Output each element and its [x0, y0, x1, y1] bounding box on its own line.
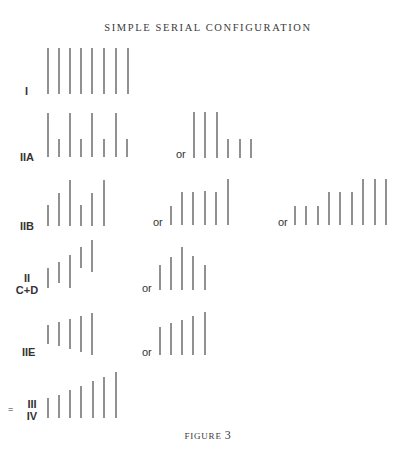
line-group-IIA-1: [48, 113, 127, 157]
line-group-I-1: [48, 48, 128, 94]
line-group-IIE-1: [48, 313, 92, 355]
line-group-IICD-1: [48, 240, 92, 288]
line-group-IIB-2: [171, 179, 228, 225]
line-group-IIB-1: [48, 180, 104, 226]
line-group-IIE-2: [160, 312, 205, 355]
line-group-III-IV-1: [48, 372, 116, 418]
serial-configuration-diagram: [0, 0, 416, 457]
caption-prefix: FIGURE: [184, 431, 221, 441]
figure-caption: FIGURE 3: [0, 428, 416, 443]
line-group-IIB-3: [295, 179, 386, 225]
line-group-IICD-2: [160, 247, 205, 290]
line-group-IIA-2: [194, 112, 251, 158]
caption-number: 3: [225, 428, 232, 442]
